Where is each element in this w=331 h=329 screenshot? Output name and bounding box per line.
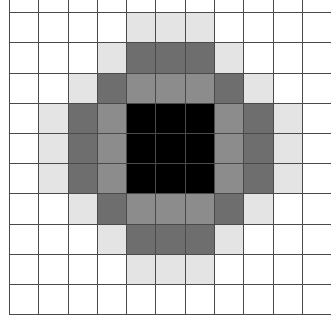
grid-cell	[186, 133, 215, 163]
grid-cell	[156, 12, 185, 42]
grid-cell	[244, 193, 273, 223]
grid-cell	[215, 193, 244, 223]
grid-cell	[127, 0, 156, 12]
grid-cell	[244, 284, 273, 314]
grid-cell	[39, 0, 68, 12]
grid-cell	[244, 42, 273, 72]
pixel-grid	[9, 0, 331, 315]
grid-cell	[303, 163, 331, 193]
grid-cell	[156, 133, 185, 163]
grid-cell	[156, 163, 185, 193]
grid-cell	[274, 103, 303, 133]
grid-cell	[127, 193, 156, 223]
grid-cell	[69, 42, 98, 72]
grid-cell	[303, 73, 331, 103]
grid-cell	[303, 193, 331, 223]
grid-cell	[39, 224, 68, 254]
grid-cell	[127, 163, 156, 193]
grid-cell	[69, 254, 98, 284]
grid-cell	[215, 0, 244, 12]
grid-cell	[69, 284, 98, 314]
grid-cell	[127, 133, 156, 163]
grid-cell	[39, 193, 68, 223]
grid-cell	[156, 0, 185, 12]
grid-cell	[186, 224, 215, 254]
grid-cell	[39, 254, 68, 284]
grid-cell	[274, 42, 303, 72]
grid-cell	[274, 224, 303, 254]
grid-cell	[39, 73, 68, 103]
grid-cell	[10, 133, 39, 163]
grid-cell	[69, 103, 98, 133]
grid-cell	[69, 224, 98, 254]
grid-cell	[274, 193, 303, 223]
grid-cell	[186, 103, 215, 133]
grid-cell	[274, 133, 303, 163]
grid-cell	[127, 254, 156, 284]
grid-cell	[244, 12, 273, 42]
grid-cell	[69, 12, 98, 42]
grid-cell	[10, 284, 39, 314]
grid-cell	[303, 42, 331, 72]
grid-cell	[98, 103, 127, 133]
grid-cell	[215, 254, 244, 284]
grid-cell	[274, 73, 303, 103]
grid-cell	[156, 284, 185, 314]
grid-cell	[39, 12, 68, 42]
grid-cell	[244, 103, 273, 133]
grid-cell	[186, 12, 215, 42]
grid-cell	[303, 284, 331, 314]
grid-cell	[69, 163, 98, 193]
grid-cell	[244, 73, 273, 103]
grid-cell	[215, 42, 244, 72]
pixel-grid-figure	[0, 0, 331, 329]
grid-cell	[156, 103, 185, 133]
grid-cell	[127, 73, 156, 103]
grid-cell	[244, 224, 273, 254]
grid-cell	[186, 254, 215, 284]
grid-cell	[215, 12, 244, 42]
grid-cell	[10, 193, 39, 223]
grid-cell	[98, 12, 127, 42]
grid-cell	[98, 73, 127, 103]
grid-cell	[215, 133, 244, 163]
grid-cell	[244, 163, 273, 193]
grid-cell	[156, 193, 185, 223]
grid-cell	[127, 12, 156, 42]
grid-cell	[303, 0, 331, 12]
grid-cell	[156, 224, 185, 254]
grid-cell	[10, 42, 39, 72]
grid-cell	[186, 284, 215, 314]
grid-cell	[69, 193, 98, 223]
grid-cell	[127, 224, 156, 254]
grid-cell	[186, 163, 215, 193]
grid-cell	[39, 133, 68, 163]
grid-cell	[274, 163, 303, 193]
grid-cell	[274, 12, 303, 42]
grid-cell	[10, 103, 39, 133]
grid-cell	[10, 163, 39, 193]
grid-cell	[98, 42, 127, 72]
grid-cell	[69, 0, 98, 12]
grid-cell	[215, 103, 244, 133]
grid-cell	[10, 0, 39, 12]
grid-cell	[127, 284, 156, 314]
grid-cell	[215, 163, 244, 193]
grid-cell	[274, 254, 303, 284]
grid-cell	[39, 103, 68, 133]
grid-cell	[244, 254, 273, 284]
grid-cell	[98, 224, 127, 254]
grid-cell	[39, 284, 68, 314]
grid-cell	[156, 254, 185, 284]
grid-cell	[186, 42, 215, 72]
grid-cell	[10, 73, 39, 103]
grid-cell	[39, 42, 68, 72]
grid-cell	[98, 284, 127, 314]
grid-cell	[127, 103, 156, 133]
grid-cell	[274, 284, 303, 314]
grid-cell	[215, 284, 244, 314]
grid-cell	[98, 133, 127, 163]
grid-cell	[303, 254, 331, 284]
grid-cell	[10, 12, 39, 42]
grid-cell	[303, 12, 331, 42]
